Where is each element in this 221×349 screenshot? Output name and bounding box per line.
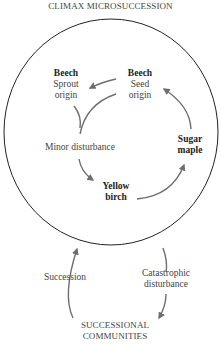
sugar-maple-line2: maple [168, 145, 212, 156]
diagram-canvas [0, 0, 221, 349]
label-successional-communities: SUCCESSIONAL COMMUNITIES [65, 320, 165, 342]
node-minor-disturbance: Minor disturbance [30, 142, 130, 153]
yellow-birch-line2: birch [94, 192, 138, 203]
catastrophic-line1: Catastrophic [136, 268, 196, 279]
arrow-minor-to-birch [79, 159, 93, 180]
communities-line1: SUCCESSIONAL [65, 320, 165, 331]
beech-seed-line1: Seed [118, 79, 162, 90]
catastrophic-line2: disturbance [136, 279, 196, 290]
label-succession: Succession [40, 272, 90, 283]
climax-circle [4, 19, 218, 245]
arrow-succession [68, 249, 77, 318]
beech-sprout-name: Beech [44, 68, 88, 79]
label-catastrophic-disturbance: Catastrophic disturbance [136, 268, 196, 290]
arrow-catastrophic-lower [159, 294, 166, 318]
beech-sprout-line1: Sprout [44, 79, 88, 90]
communities-line2: COMMUNITIES [65, 331, 165, 342]
node-beech-sprout: Beech Sprout origin [44, 68, 88, 101]
title-climax-microsuccession: CLIMAX MICROSUCCESSION [0, 1, 221, 12]
beech-seed-name: Beech [118, 68, 162, 79]
arrow-seed-to-sprout [90, 79, 116, 88]
beech-sprout-line2: origin [44, 90, 88, 101]
sugar-maple-line1: Sugar [168, 134, 212, 145]
node-sugar-maple: Sugar maple [168, 134, 212, 156]
arrow-sprout-to-minor [74, 106, 80, 128]
arrow-birch-to-maple [137, 165, 184, 199]
beech-seed-line2: origin [118, 90, 162, 101]
node-yellow-birch: Yellow birch [94, 181, 138, 203]
arrow-maple-to-seed [164, 89, 191, 129]
yellow-birch-line1: Yellow [94, 181, 138, 192]
node-beech-seed: Beech Seed origin [118, 68, 162, 101]
